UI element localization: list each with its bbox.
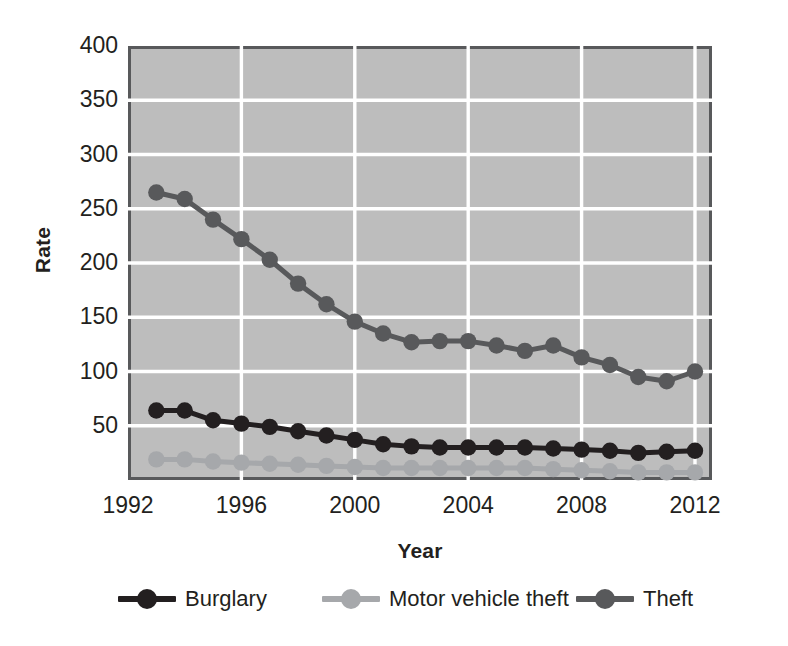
data-point-marker: [545, 337, 561, 353]
y-tick-label: 50: [60, 414, 118, 437]
data-point-marker: [573, 462, 589, 478]
data-point-marker: [573, 441, 589, 457]
y-tick-label: 400: [60, 34, 118, 57]
y-axis-title: Rate: [31, 205, 55, 295]
data-point-marker: [630, 464, 646, 480]
data-point-marker: [290, 457, 306, 473]
data-point-marker: [602, 463, 618, 479]
data-point-marker: [205, 211, 221, 227]
series-theft: [148, 184, 703, 389]
x-tick-label: 2012: [650, 492, 740, 518]
data-point-marker: [177, 451, 193, 467]
y-tick-label: 350: [60, 88, 118, 111]
data-point-marker: [375, 460, 391, 476]
data-point-marker: [517, 460, 533, 476]
y-tick-label: 250: [60, 197, 118, 220]
data-point-marker: [318, 458, 334, 474]
data-point-marker: [177, 191, 193, 207]
legend-label: Burglary: [185, 587, 267, 611]
x-tick-label: 1992: [83, 492, 173, 518]
data-point-marker: [205, 412, 221, 428]
data-point-marker: [347, 459, 363, 475]
x-tick-label: 2008: [537, 492, 627, 518]
data-point-marker: [630, 445, 646, 461]
data-point-marker: [347, 432, 363, 448]
legend-marker-icon: [118, 589, 176, 609]
data-point-marker: [262, 456, 278, 472]
data-point-marker: [602, 357, 618, 373]
data-point-marker: [545, 461, 561, 477]
data-point-marker: [318, 296, 334, 312]
data-point-marker: [375, 436, 391, 452]
data-point-marker: [318, 427, 334, 443]
legend-marker-icon: [576, 589, 634, 609]
legend-dot: [137, 589, 157, 609]
x-axis-tick-labels: 199219962000200420082012: [0, 492, 788, 526]
data-point-marker: [687, 443, 703, 459]
data-point-marker: [488, 439, 504, 455]
data-point-marker: [545, 440, 561, 456]
data-point-marker: [658, 464, 674, 480]
data-point-marker: [347, 313, 363, 329]
data-point-marker: [517, 439, 533, 455]
legend-item[interactable]: Motor vehicle theft: [322, 582, 569, 616]
data-point-marker: [432, 333, 448, 349]
data-point-marker: [233, 415, 249, 431]
series-burglary: [148, 402, 703, 461]
y-tick-label: 200: [60, 251, 118, 274]
data-point-marker: [262, 419, 278, 435]
data-point-marker: [460, 439, 476, 455]
data-point-marker: [630, 369, 646, 385]
legend-dot: [595, 589, 615, 609]
data-point-marker: [177, 402, 193, 418]
data-point-marker: [460, 333, 476, 349]
y-axis-tick-labels: 40035030025020015010050: [56, 0, 118, 480]
legend-item[interactable]: Burglary: [118, 582, 267, 616]
data-point-marker: [205, 453, 221, 469]
legend-label: Motor vehicle theft: [389, 587, 569, 611]
data-point-marker: [375, 325, 391, 341]
data-point-marker: [148, 451, 164, 467]
data-point-marker: [517, 343, 533, 359]
y-tick-label: 300: [60, 143, 118, 166]
series-line: [156, 192, 695, 381]
legend-dot: [341, 589, 361, 609]
data-point-marker: [148, 184, 164, 200]
data-point-marker: [233, 231, 249, 247]
y-tick-label: 100: [60, 360, 118, 383]
data-point-marker: [488, 337, 504, 353]
x-tick-label: 2004: [423, 492, 513, 518]
data-point-marker: [233, 454, 249, 470]
data-point-marker: [432, 460, 448, 476]
data-point-marker: [488, 460, 504, 476]
series-motor-vehicle-theft: [148, 451, 703, 480]
data-point-marker: [687, 363, 703, 379]
x-axis-title: Year: [128, 539, 712, 563]
data-point-marker: [290, 275, 306, 291]
data-point-marker: [432, 439, 448, 455]
data-point-marker: [687, 464, 703, 480]
data-point-marker: [460, 460, 476, 476]
y-tick-label: 150: [60, 305, 118, 328]
data-point-marker: [573, 349, 589, 365]
legend-label: Theft: [643, 587, 693, 611]
data-point-marker: [403, 438, 419, 454]
data-point-marker: [658, 444, 674, 460]
legend-item[interactable]: Theft: [576, 582, 693, 616]
x-tick-label: 1996: [196, 492, 286, 518]
data-point-marker: [262, 252, 278, 268]
chart-legend: BurglaryMotor vehicle theftTheft: [0, 582, 788, 622]
data-point-marker: [602, 443, 618, 459]
legend-marker-icon: [322, 589, 380, 609]
data-point-marker: [403, 334, 419, 350]
data-point-marker: [290, 423, 306, 439]
data-point-marker: [403, 460, 419, 476]
data-point-marker: [658, 373, 674, 389]
x-tick-label: 2000: [310, 492, 400, 518]
plot-series-layer: [128, 46, 712, 480]
data-point-marker: [148, 402, 164, 418]
line-chart: Rate 40035030025020015010050 19921996200…: [0, 0, 788, 646]
